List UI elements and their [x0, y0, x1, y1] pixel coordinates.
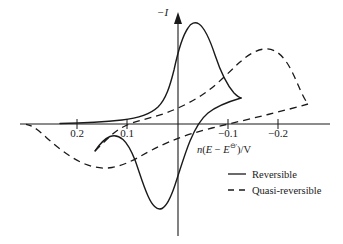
plot-area: [0, 0, 343, 244]
legend: Reversible Quasi-reversible: [222, 166, 343, 198]
x-axis-title-close: )/V: [237, 144, 251, 155]
y-axis-label: −I: [157, 6, 168, 18]
x-tick-label-0.1: 0.1: [114, 127, 140, 139]
y-axis-arrow-icon: [174, 12, 182, 24]
x-axis-title: n(E − E⊖')/V: [197, 142, 251, 155]
x-axis-title-minus: −: [212, 144, 223, 155]
legend-swatch-dashed-icon: [222, 185, 246, 195]
x-tick-label-0.2: 0.2: [64, 127, 90, 139]
cyclic-voltammogram-figure: −I 0.2 0.1 −0.1 −0.2 n(E − E⊖')/V Revers…: [0, 0, 343, 244]
x-tick-label-neg-0.1: −0.1: [213, 127, 243, 139]
x-tick-label-neg-0.2: −0.2: [263, 127, 293, 139]
x-axis-title-superscript: ⊖': [230, 142, 237, 150]
legend-label-quasi-reversible: Quasi-reversible: [252, 185, 321, 196]
legend-label-reversible: Reversible: [252, 169, 297, 180]
legend-item-quasi-reversible: Quasi-reversible: [222, 182, 343, 198]
legend-item-reversible: Reversible: [222, 166, 343, 182]
legend-swatch-solid-icon: [222, 169, 246, 179]
